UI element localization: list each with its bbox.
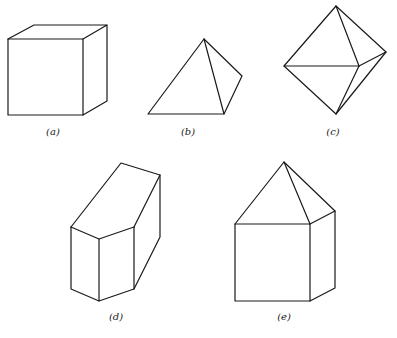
label-d: (d) bbox=[109, 311, 123, 322]
label-c: (c) bbox=[326, 126, 340, 137]
figure-a-cube: (a) bbox=[8, 25, 107, 137]
figure-d-prism: (d) bbox=[71, 163, 160, 322]
label-b: (b) bbox=[181, 126, 195, 137]
polyhedra-diagram: (a) (b) (c) (d) (e) bbox=[0, 0, 397, 338]
figure-c-octahedron: (c) bbox=[284, 6, 386, 137]
label-e: (e) bbox=[277, 311, 291, 322]
label-a: (a) bbox=[46, 126, 60, 137]
figure-b-tetrahedron: (b) bbox=[148, 39, 242, 137]
figure-e-house: (e) bbox=[235, 162, 335, 322]
